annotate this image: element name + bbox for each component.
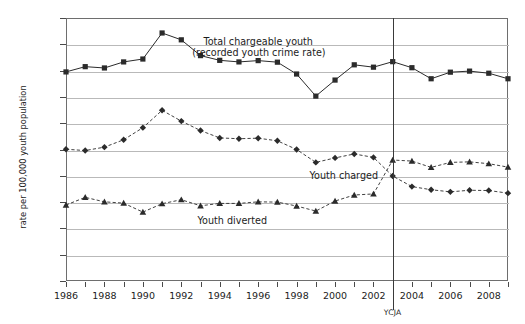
annotation-total-line2: (recorded youth crime rate) [192, 47, 324, 58]
x-tick-mark [431, 282, 432, 287]
x-tick-mark [297, 282, 298, 287]
x-tick-mark [277, 282, 278, 287]
gridline [67, 177, 509, 178]
youth-crime-rate-chart: rate per 100,000 youth population 01,000… [0, 0, 525, 324]
annotation-diverted-line1: Youth diverted [198, 215, 267, 226]
x-tick-mark [143, 282, 144, 287]
x-tick-mark [104, 282, 105, 287]
annotation-youth-diverted: Youth diverted [187, 215, 277, 226]
annotation-youth-charged: Youth charged [299, 170, 389, 181]
y-tick-mark [60, 71, 66, 72]
x-tick-label: 1998 [285, 290, 309, 301]
x-tick-mark [201, 282, 202, 287]
gridline [67, 229, 509, 230]
x-tick-label: 2000 [323, 290, 347, 301]
x-tick-mark [470, 282, 471, 287]
x-tick-mark [66, 282, 67, 287]
y-tick-mark [60, 150, 66, 151]
x-tick-label: 1992 [169, 290, 193, 301]
y-axis-title: rate per 100,000 youth population [18, 82, 28, 232]
x-tick-label: 1996 [246, 290, 270, 301]
y-tick-mark [60, 97, 66, 98]
y-tick-mark [60, 18, 66, 19]
x-tick-label: 1990 [131, 290, 155, 301]
x-tick-mark [162, 282, 163, 287]
gridline [67, 203, 509, 204]
annotation-charged-line1: Youth charged [309, 170, 378, 181]
x-tick-mark [85, 282, 86, 287]
x-tick-mark [316, 282, 317, 287]
x-tick-mark [258, 282, 259, 287]
annotation-total-chargeable-youth: Total chargeable youth (recorded youth c… [192, 36, 324, 58]
annotation-total-line1: Total chargeable youth [203, 36, 313, 47]
gridline [67, 98, 509, 99]
ycja-marker-label: YCJA [384, 308, 402, 317]
y-tick-mark [60, 176, 66, 177]
y-tick-mark [60, 44, 66, 45]
gridline [67, 151, 509, 152]
y-tick-mark [60, 123, 66, 124]
gridline [67, 256, 509, 257]
x-tick-mark [373, 282, 374, 287]
x-tick-mark [335, 282, 336, 287]
x-tick-mark [508, 282, 509, 287]
x-tick-mark [220, 282, 221, 287]
x-tick-mark [489, 282, 490, 287]
x-tick-label: 1988 [92, 290, 116, 301]
x-tick-mark [450, 282, 451, 287]
x-tick-mark [239, 282, 240, 287]
x-tick-mark [412, 282, 413, 287]
y-tick-mark [60, 255, 66, 256]
x-tick-mark [354, 282, 355, 287]
x-tick-label: 2004 [400, 290, 424, 301]
gridline [67, 124, 509, 125]
y-tick-mark [60, 228, 66, 229]
x-tick-mark [181, 282, 182, 287]
gridline [67, 72, 509, 73]
x-tick-label: 1986 [54, 290, 78, 301]
x-tick-label: 2002 [361, 290, 385, 301]
x-tick-label: 2006 [438, 290, 462, 301]
ycja-marker-line [393, 18, 395, 310]
x-tick-mark [124, 282, 125, 287]
y-tick-mark [60, 202, 66, 203]
x-tick-label: 1994 [208, 290, 232, 301]
x-tick-label: 2008 [477, 290, 501, 301]
